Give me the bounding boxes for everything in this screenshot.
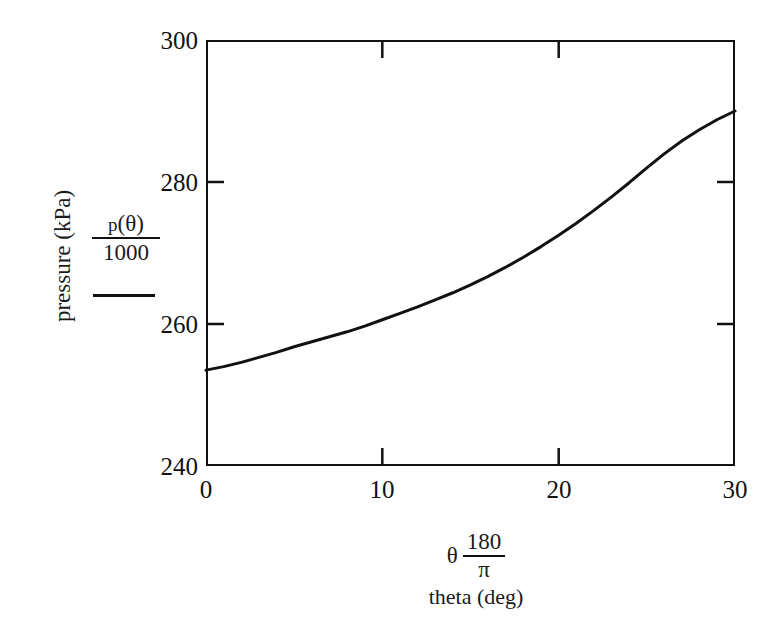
y-tick-label-240: 240 (152, 454, 198, 479)
x-expression-symbol: θ (447, 544, 463, 568)
tick-marks (206, 40, 735, 466)
x-expression-fraction: 180π (463, 530, 506, 582)
x-tick-label-20: 20 (547, 477, 572, 502)
y-tick-label-260: 260 (152, 312, 198, 337)
y-expression-numerator: p(θ) (92, 212, 160, 239)
y-axis-expression: p(θ) 1000 (92, 212, 160, 266)
x-axis-expression: θ180π (396, 530, 556, 582)
x-tick-label-30: 30 (723, 477, 748, 502)
series-line-swatch (93, 294, 155, 297)
figure-container: pressure (kPa) p(θ) 1000 300 280 260 240… (0, 0, 780, 632)
plot-area (206, 40, 735, 466)
y-axis-title: pressure (kPa) (50, 146, 76, 366)
y-tick-label-300: 300 (152, 28, 198, 53)
y-expression-denominator: 1000 (92, 239, 160, 265)
data-series-line (206, 111, 735, 370)
x-tick-label-10: 10 (370, 477, 395, 502)
y-tick-label-280: 280 (152, 170, 198, 195)
x-expression-denominator: π (463, 557, 506, 582)
y-expression-arg: (θ) (118, 211, 144, 236)
x-tick-label-0: 0 (200, 477, 213, 502)
x-axis-sub-label: theta (deg) (376, 584, 576, 610)
x-expression-numerator: 180 (463, 530, 506, 557)
y-expression-fn: p (108, 214, 118, 235)
